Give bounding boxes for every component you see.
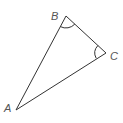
label-b: B (51, 10, 58, 22)
label-c: C (110, 50, 118, 62)
triangle-abc (16, 16, 106, 110)
angle-mark-c (95, 46, 98, 59)
label-a: A (3, 102, 11, 114)
triangle-diagram: B C A (0, 0, 123, 123)
angle-mark-b (60, 24, 74, 28)
